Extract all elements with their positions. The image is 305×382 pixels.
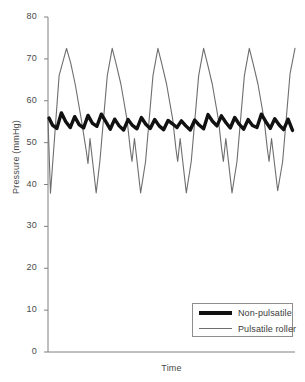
- chart-legend: Non-pulsatile Pulsatile roller: [192, 303, 293, 337]
- axis-lines: [48, 17, 295, 352]
- pressure-chart-figure: Pressure (mmHg) Time 01020304050607080 N…: [0, 0, 305, 382]
- legend-entry-pulsatile-roller: Pulsatile roller: [193, 320, 292, 337]
- series-line-non-pulsatile: [49, 113, 293, 131]
- legend-entry-non-pulsatile: Non-pulsatile: [193, 304, 292, 321]
- legend-swatch-pulsatile-roller: [199, 328, 232, 329]
- legend-label-pulsatile-roller: Pulsatile roller: [238, 324, 296, 334]
- legend-swatch-non-pulsatile: [199, 311, 232, 315]
- legend-label-non-pulsatile: Non-pulsatile: [238, 308, 292, 318]
- y-axis-ticks: [44, 17, 48, 352]
